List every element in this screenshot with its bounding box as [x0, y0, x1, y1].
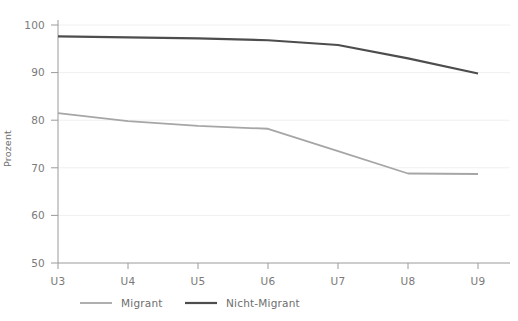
y-tick-label: 60	[31, 209, 45, 221]
series-line-migrant	[58, 113, 478, 174]
data-series-lines	[58, 36, 478, 174]
chart-legend: MigrantNicht-Migrant	[80, 297, 300, 309]
y-tick-label: 80	[31, 114, 45, 126]
x-tick-label: U3	[51, 275, 66, 287]
line-chart-plot: 5060708090100 U3U4U5U6U7U8U9 MigrantNich…	[0, 0, 518, 321]
y-tick-label: 70	[31, 162, 45, 174]
x-axis-ticks: U3U4U5U6U7U8U9	[51, 263, 486, 287]
chart-container: Prozent 5060708090100 U3U4U5U6U7U8U9 Mig…	[0, 0, 518, 321]
y-tick-label: 100	[24, 19, 45, 31]
series-line-nicht-migrant	[58, 36, 478, 73]
legend-label-nicht-migrant[interactable]: Nicht-Migrant	[226, 297, 300, 309]
y-axis-ticks: 5060708090100	[24, 19, 58, 269]
x-tick-label: U7	[331, 275, 346, 287]
x-tick-label: U6	[261, 275, 276, 287]
x-tick-label: U9	[471, 275, 486, 287]
y-tick-label: 50	[31, 257, 45, 269]
x-tick-label: U4	[121, 275, 136, 287]
x-tick-label: U8	[401, 275, 416, 287]
x-tick-label: U5	[191, 275, 206, 287]
legend-label-migrant[interactable]: Migrant	[121, 297, 163, 309]
y-tick-label: 90	[31, 66, 45, 78]
